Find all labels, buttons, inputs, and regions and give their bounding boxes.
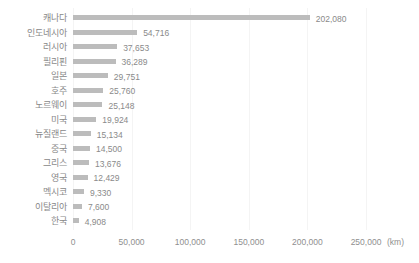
category-label: 멕시코	[0, 186, 67, 198]
value-label: 14,500	[96, 143, 122, 155]
value-label: 9,330	[90, 187, 111, 199]
bar-row: 한국4,908	[0, 214, 419, 228]
bar	[73, 175, 88, 180]
category-label: 뉴질랜드	[0, 128, 67, 140]
value-label: 4,908	[85, 216, 106, 228]
x-tick-label: 250,000	[351, 237, 382, 247]
bar-row: 미국19,924	[0, 113, 419, 127]
bar-row: 인도네시아54,716	[0, 26, 419, 40]
value-label: 37,653	[123, 42, 149, 54]
value-label: 54,716	[143, 27, 169, 39]
value-label: 12,429	[94, 172, 120, 184]
value-label: 36,289	[122, 56, 148, 68]
bar	[73, 146, 90, 151]
category-label: 인도네시아	[0, 27, 67, 39]
category-label: 필리핀	[0, 56, 67, 68]
category-label: 한국	[0, 215, 67, 227]
bar-row: 그리스13,676	[0, 156, 419, 170]
value-label: 25,148	[108, 100, 134, 112]
bar	[73, 204, 82, 209]
bar	[73, 44, 117, 49]
category-label: 일본	[0, 70, 67, 82]
value-label: 25,760	[109, 85, 135, 97]
bar-row: 캐나다202,080	[0, 11, 419, 25]
x-axis-unit-label: (km)	[387, 237, 404, 247]
value-label: 202,080	[316, 13, 347, 25]
value-label: 7,600	[88, 201, 109, 213]
bar-row: 영국12,429	[0, 171, 419, 185]
category-label: 영국	[0, 172, 67, 184]
category-label: 이탈리아	[0, 201, 67, 213]
x-tick-label: 150,000	[233, 237, 264, 247]
value-label: 13,676	[95, 158, 121, 170]
bar-row: 러시아37,653	[0, 40, 419, 54]
bar-row: 뉴질랜드15,134	[0, 127, 419, 141]
x-tick-label: 100,000	[175, 237, 206, 247]
bar-row: 일본29,751	[0, 69, 419, 83]
bar	[73, 30, 137, 35]
bar	[73, 160, 89, 165]
bar-row: 중국14,500	[0, 142, 419, 156]
bar	[73, 131, 91, 136]
bar-row: 노르웨이25,148	[0, 98, 419, 112]
value-label: 15,134	[97, 129, 123, 141]
bar	[73, 117, 96, 122]
bar	[73, 59, 116, 64]
x-tick-label: 200,000	[292, 237, 323, 247]
bar-row: 멕시코9,330	[0, 185, 419, 199]
bar-row: 이탈리아7,600	[0, 200, 419, 214]
bar	[73, 73, 108, 78]
bar	[73, 189, 84, 194]
category-label: 중국	[0, 143, 67, 155]
x-tick-label: 0	[71, 237, 76, 247]
category-label: 노르웨이	[0, 99, 67, 111]
category-label: 미국	[0, 114, 67, 126]
category-label: 호주	[0, 85, 67, 97]
bar-row: 필리핀36,289	[0, 55, 419, 69]
category-label: 러시아	[0, 41, 67, 53]
bar-chart: 캐나다202,080인도네시아54,716러시아37,653필리핀36,289일…	[0, 0, 419, 263]
bar	[73, 218, 79, 223]
bar	[73, 88, 103, 93]
category-label: 캐나다	[0, 12, 67, 24]
bar	[73, 102, 102, 107]
x-tick-label: 50,000	[119, 237, 145, 247]
value-label: 29,751	[114, 71, 140, 83]
category-label: 그리스	[0, 157, 67, 169]
bar	[73, 15, 310, 20]
value-label: 19,924	[102, 114, 128, 126]
bar-row: 호주25,760	[0, 84, 419, 98]
